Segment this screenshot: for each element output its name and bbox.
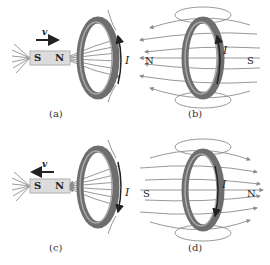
magnet-north-pole: N: [55, 180, 64, 191]
panel-b: N S I (b): [135, 0, 270, 130]
velocity-label: v: [42, 27, 47, 37]
current-label: I: [223, 44, 227, 57]
right-pole-label: N: [247, 188, 256, 199]
panel-caption: (c): [49, 242, 62, 253]
panel-a-drawing: [0, 0, 135, 130]
current-label: I: [125, 54, 129, 67]
panel-d: S N I (d): [135, 130, 270, 265]
panel-c: S N v I (c): [0, 130, 135, 265]
magnet-south-pole: S: [34, 180, 41, 191]
magnet-north-pole: N: [55, 52, 64, 63]
velocity-label: v: [42, 159, 47, 169]
panel-caption: (b): [188, 108, 202, 119]
left-pole-label: N: [145, 55, 154, 66]
s-end-field-lines: [12, 172, 30, 201]
panel-caption: (d): [188, 242, 202, 253]
current-label: I: [125, 186, 129, 199]
panel-caption: (a): [49, 108, 63, 119]
left-pole-label: S: [143, 188, 150, 199]
panel-a: S N v I (a): [0, 0, 135, 130]
panel-c-drawing: [0, 130, 135, 265]
right-pole-label: S: [247, 55, 254, 66]
s-end-field-lines: [12, 44, 30, 73]
current-label: I: [222, 178, 226, 191]
magnet-south-pole: S: [34, 52, 41, 63]
